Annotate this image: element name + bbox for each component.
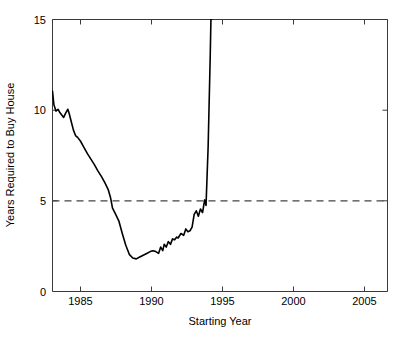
x-tick-label-2: 1995 — [210, 295, 234, 307]
y-tick-label-3: 15 — [34, 14, 46, 26]
plot-background — [52, 19, 388, 291]
y-tick-label-0: 0 — [40, 286, 46, 298]
x-tick-labels: 1985 1990 1995 2000 2005 — [68, 295, 376, 307]
x-axis-title: Starting Year — [189, 315, 252, 327]
y-axis-title: Years Required to Buy House — [4, 83, 16, 228]
x-tick-label-1: 1990 — [139, 295, 163, 307]
y-tick-labels: 0 5 10 15 — [34, 14, 46, 298]
x-tick-label-3: 2000 — [281, 295, 305, 307]
x-tick-label-0: 1985 — [68, 295, 92, 307]
y-tick-label-1: 5 — [40, 195, 46, 207]
x-tick-label-4: 2005 — [352, 295, 376, 307]
chart-figure: 1985 1990 1995 2000 2005 0 5 10 15 Start… — [0, 0, 408, 343]
y-tick-label-2: 10 — [34, 104, 46, 116]
line-chart: 1985 1990 1995 2000 2005 0 5 10 15 Start… — [0, 0, 408, 343]
